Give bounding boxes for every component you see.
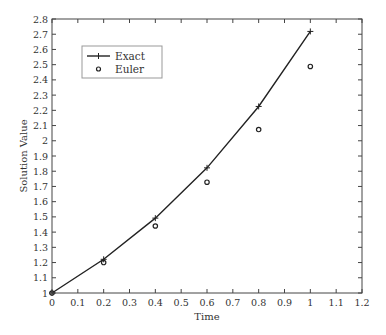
y-tick-label: 2.7 bbox=[33, 29, 48, 40]
y-tick-label: 2.3 bbox=[33, 90, 48, 101]
y-tick-label: 2.8 bbox=[33, 14, 48, 25]
y-tick-label: 1.8 bbox=[33, 166, 48, 177]
y-tick-label: 1 bbox=[42, 288, 48, 299]
legend-euler-label: Euler bbox=[115, 63, 145, 75]
x-tick-label: 0.2 bbox=[96, 297, 111, 308]
y-axis-label: Solution Value bbox=[18, 119, 29, 192]
x-axis-label: Time bbox=[194, 311, 219, 322]
x-tick-label: 1.2 bbox=[354, 297, 369, 308]
x-tick-label: 0.3 bbox=[122, 297, 137, 308]
euler-circle-marker bbox=[153, 224, 157, 228]
y-tick-label: 2.6 bbox=[33, 44, 48, 55]
legend-exact-label: Exact bbox=[115, 50, 146, 62]
euler-circle-marker bbox=[308, 64, 312, 68]
x-tick-label: 0.6 bbox=[199, 297, 214, 308]
euler-circle-marker bbox=[256, 127, 260, 131]
y-tick-label: 1.4 bbox=[33, 227, 48, 238]
x-tick-label: 1.1 bbox=[329, 297, 344, 308]
x-tick-label: 0.7 bbox=[225, 297, 240, 308]
chart: 00.10.20.30.40.50.60.70.80.911.11.211.11… bbox=[0, 0, 386, 335]
legend: Exact Euler bbox=[82, 46, 162, 78]
euler-series-markers bbox=[50, 64, 313, 295]
x-tick-label: 0.4 bbox=[148, 297, 163, 308]
euler-circle-marker bbox=[205, 180, 209, 184]
x-tick-label: 1 bbox=[307, 297, 313, 308]
y-tick-label: 1.9 bbox=[33, 151, 48, 162]
x-tick-label: 0.9 bbox=[277, 297, 292, 308]
x-tick-label: 0.8 bbox=[251, 297, 266, 308]
y-tick-label: 2.1 bbox=[33, 120, 48, 131]
y-tick-label: 1.7 bbox=[33, 181, 48, 192]
y-tick-label: 1.3 bbox=[33, 242, 48, 253]
x-tick-label: 0 bbox=[49, 297, 55, 308]
y-tick-label: 1.5 bbox=[33, 211, 48, 222]
x-tick-label: 0.5 bbox=[174, 297, 189, 308]
y-tick-label: 2.2 bbox=[33, 105, 48, 116]
y-tick-label: 1.2 bbox=[33, 257, 48, 268]
y-tick-label: 2.5 bbox=[33, 59, 48, 70]
y-tick-label: 1.1 bbox=[33, 272, 48, 283]
y-tick-label: 2.4 bbox=[33, 74, 48, 85]
y-tick-label: 2 bbox=[42, 135, 48, 146]
y-tick-label: 1.6 bbox=[33, 196, 48, 207]
x-tick-label: 0.1 bbox=[70, 297, 85, 308]
